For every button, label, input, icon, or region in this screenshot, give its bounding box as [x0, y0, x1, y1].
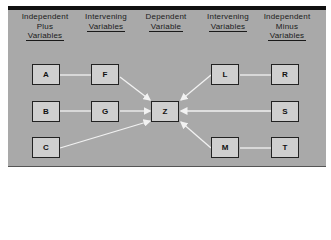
- edge-l-z: [181, 75, 211, 100]
- edge-f-z: [120, 77, 150, 100]
- node-z: Z: [151, 101, 179, 122]
- node-r: R: [271, 64, 299, 85]
- edge-c-z: [60, 121, 150, 148]
- node-s: S: [271, 101, 299, 122]
- node-m: M: [211, 137, 239, 158]
- node-a: A: [32, 64, 60, 85]
- node-c: C: [32, 137, 60, 158]
- node-l: L: [211, 64, 239, 85]
- node-f: F: [91, 64, 119, 85]
- node-t: T: [271, 137, 299, 158]
- node-g: G: [91, 101, 119, 122]
- edge-m-z: [181, 122, 211, 148]
- node-b: B: [32, 101, 60, 122]
